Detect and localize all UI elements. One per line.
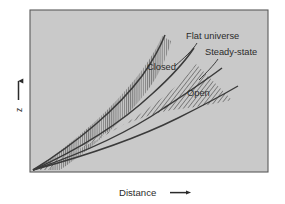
y-axis-label: z <box>14 108 24 112</box>
label-open-region: Open <box>187 88 210 98</box>
label-flat-universe: Flat universe <box>186 31 239 41</box>
x-axis-label: Distance <box>119 187 156 198</box>
label-steady-state: Steady-state <box>205 47 257 57</box>
redshift-distance-figure: Flat universe Steady-state Closed Open D… <box>0 0 285 204</box>
label-closed-region: Closed <box>147 62 176 72</box>
